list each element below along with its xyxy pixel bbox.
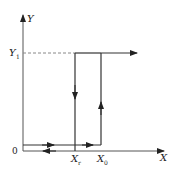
x0-subscript: 0 xyxy=(104,159,108,166)
x-axis-label: X xyxy=(159,152,168,163)
origin-label: 0 xyxy=(12,146,18,156)
xr-subscript: r xyxy=(78,159,81,166)
y-axis-label: Y xyxy=(27,13,35,24)
hysteresis-diagram: Y X 0 Y 1 X r X 0 xyxy=(0,0,174,175)
y1-subscript: 1 xyxy=(16,53,20,60)
